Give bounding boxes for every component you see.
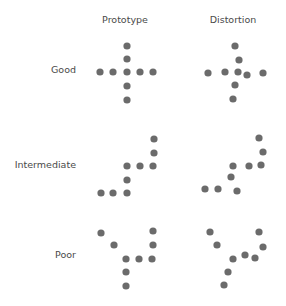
dot <box>214 185 221 192</box>
dot <box>204 69 211 76</box>
dot <box>136 162 143 169</box>
dot <box>229 255 236 262</box>
dot <box>220 281 227 288</box>
dot <box>109 189 116 196</box>
dot <box>123 42 130 49</box>
dot <box>221 68 228 75</box>
dot <box>259 148 266 155</box>
dot <box>122 268 129 275</box>
dot <box>122 282 129 289</box>
pattern-intermediate-prototype <box>97 135 157 196</box>
dot <box>149 241 156 248</box>
dot <box>233 187 240 194</box>
dot <box>123 176 130 183</box>
dot <box>231 81 238 88</box>
dot <box>149 162 156 169</box>
dot <box>123 96 130 103</box>
dot <box>259 243 266 250</box>
dot <box>150 135 157 142</box>
dot <box>149 68 156 75</box>
dot <box>97 229 104 236</box>
dot <box>97 189 104 196</box>
dot <box>229 162 236 169</box>
dot <box>149 227 156 234</box>
pattern-good-distortion <box>204 42 266 102</box>
pattern-poor-prototype <box>97 227 156 289</box>
dot <box>213 241 220 248</box>
dot <box>96 68 103 75</box>
dot <box>229 95 236 102</box>
dot <box>243 71 250 78</box>
dot <box>109 68 116 75</box>
dot-patterns <box>0 0 286 306</box>
dot <box>123 68 130 75</box>
dot <box>123 162 130 169</box>
dot <box>206 228 213 235</box>
dot <box>257 161 264 168</box>
dot <box>123 55 130 62</box>
dot <box>123 82 130 89</box>
dot <box>234 68 241 75</box>
dot <box>135 255 142 262</box>
dot <box>259 69 266 76</box>
dot <box>255 228 262 235</box>
dot <box>231 42 238 49</box>
dot <box>241 251 248 258</box>
dot <box>148 255 155 262</box>
dot <box>110 241 117 248</box>
dot <box>122 255 129 262</box>
dot <box>255 134 262 141</box>
dot <box>123 189 130 196</box>
dot <box>150 149 157 156</box>
dot <box>245 162 252 169</box>
pattern-good-prototype <box>96 42 156 103</box>
dot <box>136 68 143 75</box>
dot <box>251 254 258 261</box>
dot <box>227 173 234 180</box>
dot <box>201 185 208 192</box>
pattern-intermediate-distortion <box>201 134 266 194</box>
dot <box>224 268 231 275</box>
pattern-poor-distortion <box>206 228 266 288</box>
dot <box>235 56 242 63</box>
